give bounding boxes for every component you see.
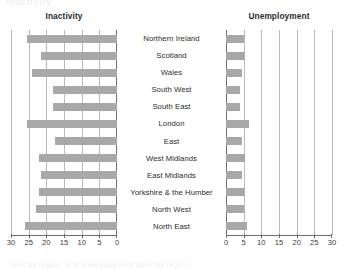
bar-inactivity-london[interactable] [27, 120, 117, 128]
bar-row [11, 47, 117, 64]
bar-unemployment-yorkshire-the-humber[interactable] [226, 188, 245, 196]
bar-row [11, 184, 117, 201]
bar-row [11, 98, 117, 115]
bar-row [11, 64, 117, 81]
category-label-north-east: North East [118, 218, 225, 235]
bar-unemployment-northern-ireland[interactable] [226, 35, 244, 43]
gridline [332, 30, 333, 235]
bar-inactivity-east-midlands[interactable] [41, 171, 117, 179]
bar-unemployment-south-east[interactable] [226, 103, 240, 111]
chart-title-unemployment: Unemployment [226, 11, 332, 21]
bar-inactivity-yorkshire-the-humber[interactable] [39, 188, 117, 196]
category-label-east-midlands: East Midlands [118, 167, 225, 184]
bar-unemployment-east[interactable] [226, 137, 242, 145]
category-label-west-midlands: West Midlands [118, 150, 225, 167]
bar-inactivity-south-east[interactable] [53, 103, 117, 111]
category-label-north-west: North West [118, 201, 225, 218]
plot-area-inactivity [11, 30, 117, 235]
tick-label-inactivity-20: 20 [42, 238, 50, 247]
tick-label-inactivity-5: 5 [97, 238, 101, 247]
category-label-yorkshire-the-humber: Yorkshire & the Humber [118, 184, 225, 201]
tick-label-unemployment-25: 25 [310, 238, 318, 247]
tick-label-inactivity-30: 30 [7, 238, 15, 247]
chart-title-inactivity: Inactivity [11, 11, 117, 21]
category-label-south-west: South West [118, 81, 225, 98]
bar-row [11, 115, 117, 132]
tick-label-inactivity-0: 0 [115, 238, 119, 247]
bar-row [11, 30, 117, 47]
bar-unemployment-east-midlands[interactable] [226, 171, 242, 179]
bar-unemployment-north-west[interactable] [226, 205, 244, 213]
bar-row [226, 47, 332, 64]
bar-inactivity-north-east[interactable] [25, 222, 117, 230]
bar-row [226, 115, 332, 132]
category-label-scotland: Scotland [118, 47, 225, 64]
tick-label-unemployment-15: 15 [275, 238, 283, 247]
bar-row [11, 133, 117, 150]
tick-label-unemployment-5: 5 [242, 238, 246, 247]
bar-row [226, 150, 332, 167]
tick-label-unemployment-0: 0 [224, 238, 228, 247]
bar-row [11, 218, 117, 235]
bar-row [226, 218, 332, 235]
plot-area-unemployment [226, 30, 332, 235]
category-label-northern-ireland: Northern Ireland [118, 30, 225, 47]
bar-row [226, 201, 332, 218]
tick-label-inactivity-15: 15 [60, 238, 68, 247]
bar-row [226, 184, 332, 201]
bar-inactivity-west-midlands[interactable] [39, 154, 117, 162]
tick-label-unemployment-10: 10 [257, 238, 265, 247]
tick-label-inactivity-10: 10 [77, 238, 85, 247]
tick-label-inactivity-25: 25 [24, 238, 32, 247]
x-axis-inactivity: 302520151050 [11, 238, 117, 252]
bar-row [11, 81, 117, 98]
bar-row [11, 167, 117, 184]
bar-unemployment-scotland[interactable] [226, 52, 245, 60]
bar-unemployment-west-midlands[interactable] [226, 154, 245, 162]
bar-row [11, 201, 117, 218]
category-label-east: East [118, 133, 225, 150]
category-label-column: Northern IrelandScotlandWalesSouth WestS… [118, 30, 225, 235]
bar-row [226, 98, 332, 115]
bar-inactivity-north-west[interactable] [36, 205, 117, 213]
clipped-top-text: Inactivity [6, 0, 51, 7]
bar-row [226, 30, 332, 47]
category-label-south-east: South East [118, 98, 225, 115]
bar-row [226, 133, 332, 150]
bar-inactivity-scotland[interactable] [41, 52, 117, 60]
bar-unemployment-south-west[interactable] [226, 86, 240, 94]
bar-row [226, 64, 332, 81]
tick-label-unemployment-30: 30 [328, 238, 336, 247]
bar-inactivity-northern-ireland[interactable] [27, 35, 117, 43]
bar-row [226, 167, 332, 184]
tick-label-unemployment-20: 20 [292, 238, 300, 247]
category-label-wales: Wales [118, 64, 225, 81]
bar-inactivity-east[interactable] [55, 137, 117, 145]
bar-inactivity-south-west[interactable] [53, 86, 117, 94]
bar-unemployment-north-east[interactable] [226, 222, 247, 230]
category-label-london: London [118, 115, 225, 132]
bar-inactivity-wales[interactable] [32, 69, 117, 77]
x-axis-unemployment: 051015202530 [226, 238, 332, 252]
bar-row [11, 150, 117, 167]
clipped-bottom-text: rates by region, and unemployment rates … [8, 260, 189, 269]
bar-row [226, 81, 332, 98]
bar-unemployment-wales[interactable] [226, 69, 242, 77]
bar-unemployment-london[interactable] [226, 120, 249, 128]
